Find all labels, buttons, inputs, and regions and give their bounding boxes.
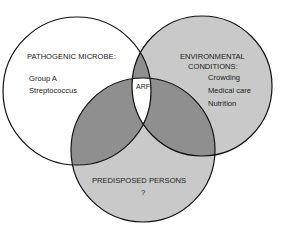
arf-region [0, 0, 283, 236]
pathogen-item: Streptococcus [29, 87, 77, 95]
host-item: ? [141, 189, 145, 197]
environment-item: Crowding [208, 74, 240, 82]
arf-lens [0, 0, 283, 236]
environment-item: Medical care [208, 87, 251, 95]
environment-title-line2: CONDITIONS: [188, 63, 238, 71]
pathogen-item: Group A [29, 75, 57, 83]
host-title: PREDISPOSED PERSONS [92, 177, 186, 185]
pathogen-title: PATHOGENIC MICROBE: [27, 53, 116, 61]
environment-item: Nutrition [208, 100, 236, 108]
environment-title-line1: ENVIRONMENTAL [180, 53, 245, 61]
arf-label: ARF [136, 83, 150, 90]
